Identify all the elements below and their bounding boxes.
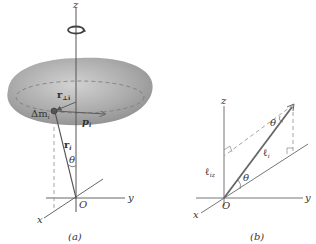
panel-a: z y x O ri θ r⊥i pi Δmi (a) [7,0,152,242]
rigid-body [7,58,152,126]
y-label-b: y [304,192,311,203]
z-label-b: z [220,95,227,106]
x-label-a: x [37,214,43,225]
x-label-b: x [193,209,199,220]
mass-particle [51,108,57,114]
theta-top-label: θ [270,117,276,128]
theta-bottom-label: θ [243,172,249,183]
x-axis-b [201,144,308,213]
lz-projection [224,105,293,156]
panel-b: z y x O ℓi ℓiz θ θ (b) [193,95,311,242]
theta-label-a: θ [69,154,75,165]
angular-momentum-diagram: z y x O ri θ r⊥i pi Δmi (a) [0,0,316,244]
l-label: ℓi [263,147,270,159]
y-label-a: y [127,192,134,203]
z-label-a: z [72,0,79,10]
r-label: ri [64,139,72,151]
mass-label: Δmi [31,108,50,120]
origin-label-a: O [79,199,87,210]
x-axis-a [44,179,103,218]
l-vector [224,107,292,198]
caption-b: (b) [250,231,264,242]
origin-label-b: O [222,200,230,211]
caption-a: (a) [68,231,82,242]
lz-label: ℓiz [205,166,216,178]
